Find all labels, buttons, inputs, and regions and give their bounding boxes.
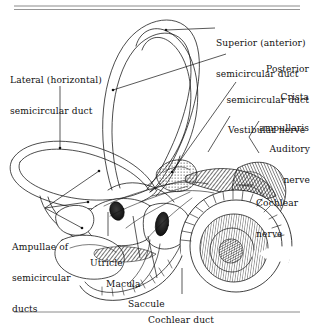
label-line: Auditory [200,144,310,154]
label-line: Cochlear [256,198,298,208]
label-line: Cochlear duct [148,315,214,325]
leader-dot-crista [171,171,174,174]
label-line: semicircular duct [10,106,102,116]
leader-superior-duct [166,28,215,30]
label-cochlear-nerve: Cochlear nerve [256,178,298,260]
label-line: semicircular [12,273,71,283]
leader-dot-posterior-duct [112,89,115,92]
label-line: ducts [12,304,71,314]
label-line: Ampullae of [12,242,71,252]
label-ampullae: Ampullae of semicircular ducts [12,222,71,327]
leader-saccule [148,236,157,278]
label-line: Crista [200,92,309,102]
leader-dot-lateral-duct [59,147,62,150]
label-cochlear-duct: Cochlear duct [148,295,214,327]
leader-macula [133,216,140,258]
leader-dot-superior-duct [165,29,168,32]
leader-ampullae [45,170,100,230]
label-lateral-semicircular-duct: Lateral (horizontal) semicircular duct [10,55,102,137]
label-line: Lateral (horizontal) [10,75,102,85]
label-line: nerve [256,229,298,239]
